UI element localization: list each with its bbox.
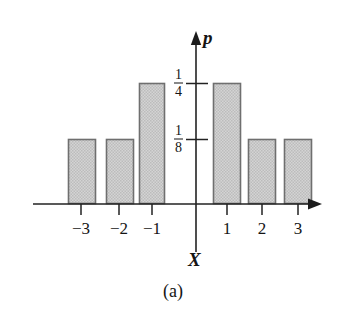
y-tick-eighth-numerator: 1: [173, 124, 184, 139]
x-axis-label: X: [188, 250, 201, 269]
x-tick-label-minus-2: −2: [110, 220, 128, 237]
y-tick-label-eighth: 1 8: [173, 124, 184, 155]
bar-minus-1: [140, 84, 165, 204]
y-tick-label-quarter: 1 4: [173, 68, 184, 99]
y-tick-eighth-denominator: 8: [173, 140, 184, 155]
x-axis-arrow-icon: [308, 199, 322, 210]
y-tick-quarter-denominator: 4: [173, 84, 184, 99]
x-tick-label-1: 1: [223, 220, 232, 237]
bar-minus-3: [69, 140, 96, 204]
y-axis-arrow-icon: [191, 31, 201, 45]
y-axis-label: p: [203, 28, 213, 47]
bar-group: [69, 84, 312, 204]
y-tick-quarter-numerator: 1: [173, 68, 184, 83]
x-tick-label-3: 3: [294, 220, 303, 237]
figure-container: 1 4 1 8 −3 −2 −1 1 2 3 p X (a): [0, 0, 346, 315]
bar-minus-2: [107, 140, 134, 204]
y-tick-marks: [186, 84, 208, 140]
probability-bar-chart: [0, 0, 346, 315]
bar-plus-1: [214, 84, 241, 204]
x-tick-marks: [81, 204, 298, 215]
x-tick-label-minus-3: −3: [72, 220, 90, 237]
x-tick-label-2: 2: [258, 220, 267, 237]
bar-plus-2: [249, 140, 276, 204]
bar-plus-3: [285, 140, 312, 204]
figure-caption: (a): [0, 282, 346, 300]
x-tick-label-minus-1: −1: [143, 220, 161, 237]
